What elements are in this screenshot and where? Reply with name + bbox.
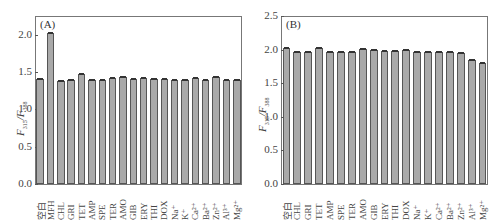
x-tick-label-b: TET: [314, 204, 324, 221]
x-tick-label-b: Mg²⁺: [478, 200, 488, 220]
x-tick-label-a: AMO: [118, 199, 128, 220]
bar-a: [150, 79, 157, 184]
error-bar-b: [382, 50, 388, 52]
error-bar-a: [89, 79, 94, 81]
bar-a: [99, 80, 106, 184]
bar-b: [370, 50, 378, 184]
x-tick-label-a: THI: [149, 205, 159, 220]
error-bar-b: [403, 49, 409, 51]
error-bar-b: [316, 47, 322, 49]
error-bar-a: [172, 79, 177, 81]
error-bar-b: [294, 51, 300, 53]
bar-b: [359, 49, 367, 184]
x-tick-label-b: K⁺: [423, 209, 433, 220]
error-bar-a: [37, 78, 42, 80]
bar-b: [446, 52, 454, 184]
error-bar-b: [349, 51, 355, 53]
bar-b: [326, 52, 334, 184]
error-bar-b: [480, 62, 486, 64]
bar-b: [457, 53, 465, 184]
error-bar-a: [131, 78, 136, 80]
x-tick-label-b: ERY: [380, 202, 390, 220]
bar-a: [119, 77, 126, 184]
error-bar-a: [141, 77, 146, 79]
error-bar-a: [224, 79, 229, 81]
error-bar-a: [162, 78, 167, 80]
x-tick-label-a: Al³⁺: [221, 204, 231, 220]
x-tick-label-b: Al³⁺: [467, 204, 477, 220]
bar-a: [140, 78, 147, 184]
y-tick-label-a: 0.0: [6, 177, 32, 189]
bar-a: [171, 80, 178, 184]
error-bar-b: [327, 51, 333, 53]
bar-b: [348, 52, 356, 184]
x-tick-label-a: Na⁺: [170, 205, 180, 220]
bar-a: [36, 79, 43, 184]
y-tick-b: [281, 184, 284, 185]
plot-area-a: [35, 16, 242, 185]
error-bar-a: [234, 79, 239, 81]
x-tick-label-a: CHL: [56, 202, 66, 220]
y-tick-a: [35, 72, 38, 73]
x-tick-label-a: GRI: [66, 205, 76, 221]
bar-a: [192, 78, 199, 184]
error-bar-b: [469, 59, 475, 61]
error-bar-b: [284, 47, 290, 49]
error-bar-a: [48, 32, 53, 34]
error-bar-a: [68, 79, 73, 81]
bar-b: [381, 51, 389, 184]
chart-panel-b: F315/F388 (B) 0.00.51.01.52.02.5空白CHLGRI…: [250, 0, 499, 222]
x-tick-label-a: AMP: [87, 200, 97, 220]
error-bar-a: [182, 79, 187, 81]
y-tick-label-a: 2.0: [6, 28, 32, 40]
error-bar-b: [305, 51, 311, 53]
x-tick-label-b: GIB: [369, 205, 379, 221]
bar-a: [223, 80, 230, 184]
y-tick-a: [35, 184, 38, 185]
bar-a: [161, 79, 168, 184]
bar-a: [202, 80, 209, 184]
y-tick-a: [35, 35, 38, 36]
x-tick-label-a: Mg²⁺: [232, 200, 242, 220]
bar-b: [479, 63, 487, 184]
x-tick-label-a: Ca²⁺: [190, 203, 200, 220]
bar-a: [67, 80, 74, 184]
y-tick-label-b: 2.0: [252, 43, 278, 55]
x-tick-label-a: Zn²⁺: [211, 203, 221, 220]
x-tick-label-b: THI: [390, 205, 400, 220]
bar-a: [212, 77, 219, 184]
bar-b: [391, 51, 399, 184]
error-bar-a: [79, 73, 84, 75]
bar-b: [402, 50, 410, 184]
bar-a: [57, 81, 64, 184]
error-bar-b: [360, 48, 366, 50]
x-tick-label-b: Na⁺: [412, 205, 422, 220]
bar-b: [337, 52, 345, 184]
x-tick-label-a: GIB: [128, 205, 138, 221]
bar-a: [47, 33, 54, 184]
x-tick-label-b: AMP: [325, 200, 335, 220]
bar-b: [424, 52, 432, 184]
error-bar-a: [120, 76, 125, 78]
x-tick-label-b: TER: [347, 203, 357, 220]
error-bar-b: [447, 51, 453, 53]
error-bar-b: [436, 51, 442, 53]
bar-a: [233, 80, 240, 184]
error-bar-a: [110, 77, 115, 79]
x-tick-label-a: MFH: [46, 200, 56, 220]
error-bar-a: [203, 79, 208, 81]
y-tick-label-b: 1.5: [252, 76, 278, 88]
x-tick-label-b: AMO: [358, 199, 368, 220]
error-bar-a: [193, 77, 198, 79]
error-bar-a: [58, 80, 63, 82]
bar-a: [88, 80, 95, 184]
bar-b: [283, 48, 291, 184]
error-bar-b: [414, 51, 420, 53]
x-tick-label-b: Ba²⁺: [445, 203, 455, 220]
bar-b: [468, 60, 476, 184]
error-bar-a: [151, 78, 156, 80]
x-tick-label-b: SPE: [336, 204, 346, 220]
y-tick-label-a: 0.5: [6, 140, 32, 152]
panel-label-a: (A): [40, 18, 55, 30]
y-tick-label-b: 2.5: [252, 9, 278, 21]
